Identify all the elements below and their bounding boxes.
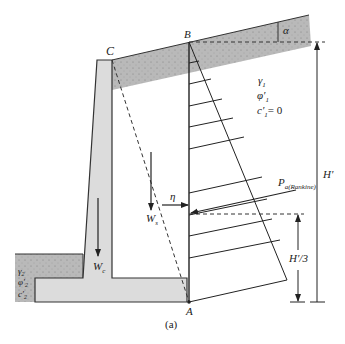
active-force-label: Pa(Rankine) — [277, 176, 317, 191]
force-arrows — [98, 152, 296, 256]
point-a-marker — [187, 300, 191, 304]
point-b-label: B — [184, 28, 191, 40]
third-height-label: H′/3 — [288, 252, 308, 264]
retaining-wall-diagram: C B A α (a) γ1 φ′1 c′1= 0 γ2 φ′2 c′2 Wc … — [0, 0, 345, 344]
pressure-diagram — [189, 42, 287, 302]
figure-caption: (a) — [165, 318, 178, 331]
backfill-properties: γ1 φ′1 c′1= 0 — [257, 74, 283, 119]
point-a-label: A — [185, 305, 193, 317]
height-label: H′ — [322, 168, 334, 180]
backfill-soil — [112, 15, 311, 90]
svg-text:φ′1: φ′1 — [257, 89, 269, 104]
svg-text:γ1: γ1 — [258, 74, 266, 89]
alpha-label: α — [283, 24, 289, 36]
eta-label: η — [170, 190, 175, 202]
soil-weight-label: Ws — [146, 212, 158, 227]
point-c-label: C — [106, 44, 115, 58]
svg-text:c′1= 0: c′1= 0 — [257, 104, 283, 119]
